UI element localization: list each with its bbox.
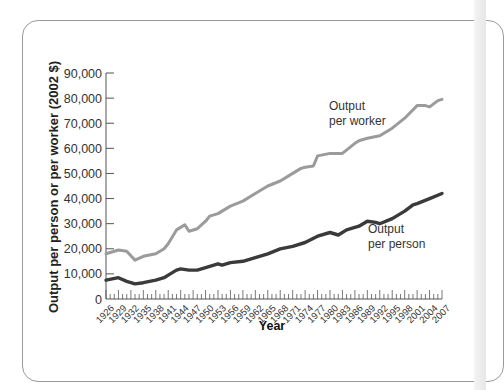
y-tick-label: 0 (95, 293, 102, 307)
output-per-person-label: Output (368, 222, 405, 236)
y-tick-label: 10,000 (64, 267, 102, 281)
series-lines (106, 99, 442, 284)
y-tick-label: 90,000 (64, 67, 102, 81)
y-axis: 010,00020,00030,00040,00050,00060,00070,… (64, 67, 114, 307)
y-tick-label: 80,000 (64, 92, 102, 106)
x-axis-title: Year (259, 319, 286, 333)
output-per-worker-label: per worker (329, 114, 386, 128)
output-per-person-label: per person (368, 237, 425, 251)
y-tick-label: 30,000 (64, 217, 102, 231)
y-tick-label: 60,000 (64, 142, 102, 156)
y-tick-label: 50,000 (64, 167, 102, 181)
y-tick-label: 20,000 (64, 242, 102, 256)
y-tick-label: 70,000 (64, 117, 102, 131)
y-axis-title: Output per person or per worker (2002 $) (46, 61, 61, 313)
y-tick-label: 40,000 (64, 192, 102, 206)
series-labels: Outputper workerOutputper person (329, 99, 425, 251)
output-per-worker-label: Output (329, 99, 366, 113)
